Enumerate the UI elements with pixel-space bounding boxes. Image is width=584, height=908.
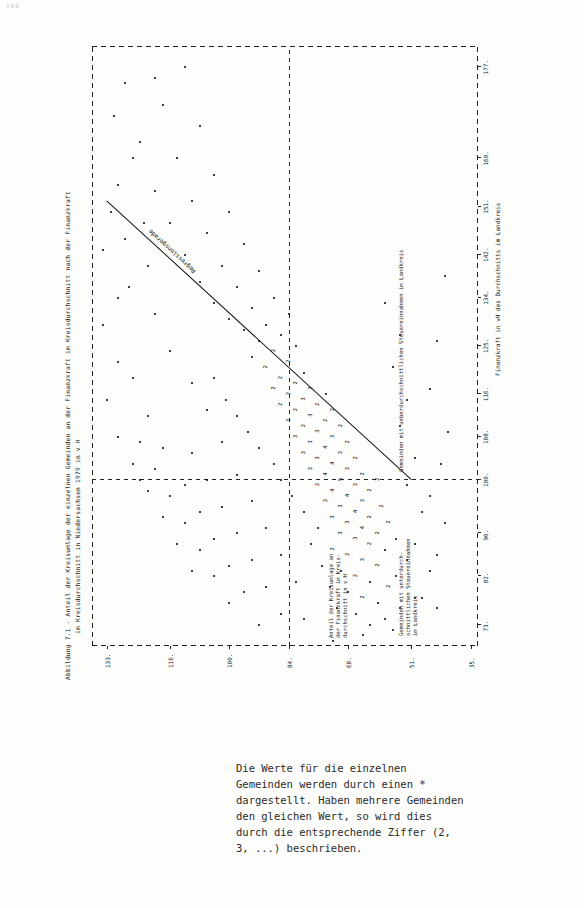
x-tick-label: 73. (482, 621, 489, 632)
data-point-multiplicity: 2 (278, 403, 283, 406)
figure-title-line2: im Kreisdurchschnitt in Niedersachsen 19… (74, 439, 81, 634)
data-point-multiplicity: 2 (286, 360, 291, 363)
data-point (440, 463, 442, 465)
data-point (162, 447, 164, 449)
data-point (273, 297, 275, 299)
data-point-multiplicity: 3 (360, 558, 365, 561)
x-tick (478, 297, 481, 298)
data-point-multiplicity: 2 (338, 424, 343, 427)
data-point (199, 549, 201, 551)
data-point (288, 313, 290, 315)
data-point-multiplicity: 2 (353, 574, 358, 577)
annotation-below-average: Gemeinden mit unterdurch- schnittlichen … (398, 538, 419, 636)
figure-rotated: Abbildung 7.1 - Anteil der Kreisumlage d… (66, 20, 518, 680)
data-point-multiplicity: 2 (263, 365, 268, 368)
data-point (444, 522, 446, 524)
data-point-multiplicity: 4 (323, 446, 328, 449)
data-point (162, 104, 164, 106)
x-tick (478, 393, 481, 394)
data-point (303, 372, 305, 374)
data-point (258, 624, 260, 626)
figure-title-line1: Abbildung 7.1 - Anteil der Kreisumlage d… (64, 191, 71, 680)
reference-line-horizontal (289, 46, 290, 646)
data-point (321, 565, 323, 567)
data-point (258, 447, 260, 449)
y-tick (411, 646, 412, 649)
data-point-multiplicity: 2 (286, 392, 291, 395)
y-tick (348, 646, 349, 649)
data-point (169, 222, 171, 224)
data-point (273, 463, 275, 465)
y-tick (471, 646, 472, 649)
data-point (429, 388, 431, 390)
document-page: 109 Abbildung 7.1 - Anteil der Kreisumla… (0, 0, 584, 908)
data-point (377, 602, 379, 604)
data-point-multiplicity: 2 (375, 478, 380, 481)
x-tick (478, 479, 481, 480)
y-tick-label: 51. (408, 657, 415, 668)
y-tick-label: 116. (167, 654, 174, 668)
data-point-multiplicity: 3 (353, 483, 358, 486)
y-tick-label: 35. (468, 657, 475, 668)
data-point-multiplicity: 3 (315, 456, 320, 459)
data-point (429, 570, 431, 572)
data-point-multiplicity: 2 (315, 403, 320, 406)
data-point-multiplicity: 2 (293, 381, 298, 384)
data-point (247, 431, 249, 433)
data-point-multiplicity: 3 (308, 440, 313, 443)
data-point (295, 581, 297, 583)
data-point-multiplicity: 3 (330, 435, 335, 438)
data-point (303, 511, 305, 513)
data-point (225, 399, 227, 401)
data-point-multiplicity: 3 (330, 515, 335, 518)
data-point (355, 613, 357, 615)
data-point (102, 324, 104, 326)
data-point-multiplicity: 3 (308, 413, 313, 416)
data-point-multiplicity: 2 (293, 408, 298, 411)
x-axis-label: Finanzkraft in vH des Durchschnitts im L… (494, 203, 501, 376)
data-point (221, 265, 223, 267)
data-point-multiplicity: 2 (386, 585, 391, 588)
data-point-multiplicity: 3 (315, 429, 320, 432)
data-point-multiplicity: 3 (308, 467, 313, 470)
data-point-multiplicity: 4 (360, 526, 365, 529)
x-tick-label: 134. (482, 290, 489, 304)
data-point-multiplicity: 2 (367, 488, 372, 491)
data-point (110, 211, 112, 213)
y-tick-label: 133. (104, 654, 111, 668)
data-point (117, 297, 119, 299)
data-point (154, 190, 156, 192)
y-tick-label: 84. (286, 657, 293, 668)
scatter-plot-area: 2222322233243232432334423352423343233432… (92, 46, 478, 646)
data-point-multiplicity: 2 (386, 521, 391, 524)
x-tick (478, 624, 481, 625)
data-point (147, 490, 149, 492)
data-point (154, 313, 156, 315)
data-point-multiplicity: 2 (360, 596, 365, 599)
data-point-multiplicity: 2 (367, 515, 372, 518)
data-point (184, 254, 186, 256)
x-tick-label: 82. (482, 573, 489, 584)
data-point (332, 640, 334, 642)
data-point (251, 356, 253, 358)
x-tick-label: 142. (482, 247, 489, 261)
data-point-multiplicity: 3 (353, 537, 358, 540)
footnote-text: Die Werte für die einzelnen Gemeinden we… (236, 760, 466, 856)
reference-line-vertical (92, 479, 478, 480)
data-point (132, 377, 134, 379)
data-point-multiplicity: 2 (367, 542, 372, 545)
figure-container: Abbildung 7.1 - Anteil der Kreisumlage d… (0, 0, 584, 700)
data-point (184, 522, 186, 524)
data-point-multiplicity: 3 (345, 467, 350, 470)
data-point-multiplicity: 3 (360, 499, 365, 502)
y-tick-label: 100. (226, 654, 233, 668)
data-point-multiplicity: 3 (338, 504, 343, 507)
data-point (236, 286, 238, 288)
data-point (147, 265, 149, 267)
data-point-multiplicity: 4 (345, 494, 350, 497)
x-tick (478, 158, 481, 159)
data-point (132, 463, 134, 465)
data-point-multiplicity: 2 (330, 547, 335, 550)
data-point-multiplicity: 4 (330, 488, 335, 491)
data-point (199, 511, 201, 513)
